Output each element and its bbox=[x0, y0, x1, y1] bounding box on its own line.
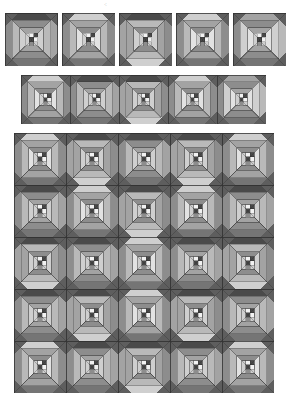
quilt-block-r5-c4 bbox=[170, 341, 222, 393]
quilt-block-r3-c4 bbox=[170, 237, 222, 289]
quilt-diagram-page: ·: bbox=[0, 0, 288, 401]
single-block-row bbox=[5, 13, 286, 66]
quilt-block-r4-c5 bbox=[222, 289, 274, 341]
quilt-block-r3-c1 bbox=[14, 237, 66, 289]
quilt-block-r5-c2 bbox=[66, 341, 118, 393]
quilt-block-r1-c4 bbox=[170, 133, 222, 185]
quilt-block-r4-c4 bbox=[170, 289, 222, 341]
quilt-block-r4-c3 bbox=[118, 289, 170, 341]
quilt-block-r4-c1 bbox=[14, 289, 66, 341]
block-grid-row bbox=[14, 133, 274, 185]
block-grid-row bbox=[14, 237, 274, 289]
quilt-block-top-row-c5 bbox=[233, 13, 286, 66]
block-grid-row bbox=[14, 341, 274, 393]
quilt-block-top-row-c2 bbox=[62, 13, 115, 66]
quilt-block-middle-row-c5 bbox=[217, 75, 266, 124]
quilt-block-r5-c1 bbox=[14, 341, 66, 393]
stray-mark: ·: bbox=[104, 2, 106, 7]
quilt-block-r3-c2 bbox=[66, 237, 118, 289]
joined-block-grid bbox=[14, 133, 274, 393]
quilt-block-r3-c5 bbox=[222, 237, 274, 289]
joined-block-row bbox=[21, 75, 266, 124]
quilt-block-top-row-c1 bbox=[5, 13, 58, 66]
quilt-block-middle-row-c4 bbox=[168, 75, 217, 124]
quilt-block-middle-row-c3 bbox=[119, 75, 168, 124]
block-grid-row bbox=[14, 185, 274, 237]
quilt-block-top-row-c4 bbox=[176, 13, 229, 66]
quilt-block-r1-c2 bbox=[66, 133, 118, 185]
block-grid-row bbox=[14, 289, 274, 341]
quilt-block-r3-c3 bbox=[118, 237, 170, 289]
quilt-block-r2-c5 bbox=[222, 185, 274, 237]
quilt-block-r5-c3 bbox=[118, 341, 170, 393]
quilt-block-middle-row-c2 bbox=[70, 75, 119, 124]
quilt-block-r4-c2 bbox=[66, 289, 118, 341]
quilt-block-r1-c1 bbox=[14, 133, 66, 185]
quilt-block-r2-c2 bbox=[66, 185, 118, 237]
quilt-block-r2-c1 bbox=[14, 185, 66, 237]
quilt-block-r1-c5 bbox=[222, 133, 274, 185]
quilt-block-r2-c4 bbox=[170, 185, 222, 237]
quilt-block-r5-c5 bbox=[222, 341, 274, 393]
quilt-block-r2-c3 bbox=[118, 185, 170, 237]
quilt-block-top-row-c3 bbox=[119, 13, 172, 66]
quilt-block-middle-row-c1 bbox=[21, 75, 70, 124]
quilt-block-r1-c3 bbox=[118, 133, 170, 185]
